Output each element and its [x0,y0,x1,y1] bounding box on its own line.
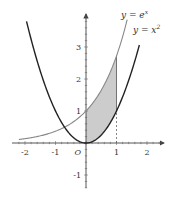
plot-canvas: -2-112-1123Oy = exy = x2 [0,0,172,203]
labels: -2-112-1123Oy = exy = x2 [21,8,160,180]
area-between-curves-diagram: -2-112-1123Oy = exy = x2 [0,0,172,203]
y-tick-label: -1 [73,171,81,180]
label-exp: y = ex [120,8,149,20]
y-tick-label: 3 [76,43,81,52]
x-tick-label: 2 [144,148,149,157]
origin-label: O [74,148,81,157]
curve-square [27,21,140,143]
y-tick-label: 1 [76,107,81,116]
axes [12,14,164,188]
x-tick-label: -1 [52,148,60,157]
label-square: y = x2 [132,23,160,35]
x-tick-label: 1 [114,148,119,157]
x-tick-label: -2 [21,148,29,157]
y-tick-label: 2 [76,75,81,84]
